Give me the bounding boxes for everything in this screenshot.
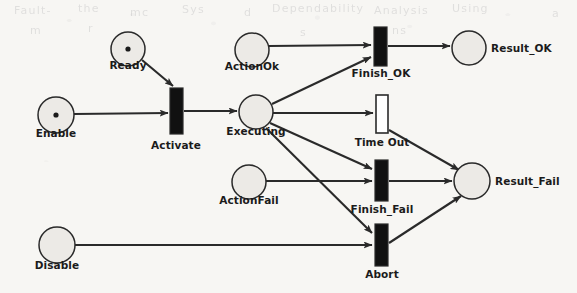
transition-label-finish_ok: Finish_OK <box>352 67 411 79</box>
place-label-result_ok: Result_OK <box>491 42 552 54</box>
place-executing[interactable] <box>239 95 273 129</box>
token-ready <box>125 46 130 51</box>
place-label-result_fail: Result_Fail <box>495 175 560 187</box>
place-label-ready: Ready <box>109 59 146 71</box>
transition-label-finish_fail: Finish_Fail <box>351 203 414 215</box>
arc-actionok-finishok <box>269 45 371 46</box>
arc-executing-finishok <box>272 57 371 104</box>
transition-label-abort: Abort <box>365 268 399 280</box>
transition-label-time_out: Time Out <box>355 136 410 148</box>
place-label-action_fail: ActionFail <box>219 194 279 206</box>
place-label-executing: Executing <box>226 125 285 137</box>
transition-label-activate: Activate <box>151 139 201 151</box>
transition-finish_fail[interactable] <box>375 160 388 201</box>
transition-time_out[interactable] <box>376 95 388 133</box>
arc-enable-activate <box>74 113 168 114</box>
place-label-disable: Disable <box>35 259 80 271</box>
transition-finish_ok[interactable] <box>374 27 387 66</box>
place-disable[interactable] <box>39 227 75 263</box>
place-result_fail[interactable] <box>454 163 490 199</box>
arc-ready-activate <box>142 60 173 86</box>
petri-net-figure: Fault-themcSysdDependabilityAnalysisUsin… <box>0 0 577 293</box>
transition-abort[interactable] <box>375 224 388 266</box>
transition-activate[interactable] <box>170 88 183 134</box>
place-label-enable: Enable <box>36 127 77 139</box>
place-result_ok[interactable] <box>452 31 486 65</box>
place-label-action_ok: ActionOk <box>225 60 279 72</box>
token-enable <box>53 112 58 117</box>
